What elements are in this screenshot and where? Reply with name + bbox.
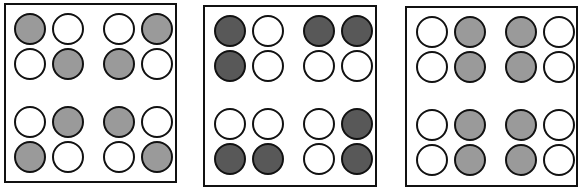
circle-empty [543,51,575,83]
circle-empty [543,16,575,48]
circle-light [103,48,135,80]
circle-empty [416,16,448,48]
circle-empty [252,15,284,47]
circle-dark [214,50,246,82]
circle-light [14,13,46,45]
circle-dark [214,15,246,47]
circle-empty [543,109,575,141]
circle-dark [341,108,373,140]
panel-3 [405,6,578,187]
circle-empty [103,13,135,45]
circle-light [141,13,173,45]
circle-empty [416,51,448,83]
circle-empty [214,108,246,140]
circle-light [454,109,486,141]
circle-dark [303,15,335,47]
circle-light [454,51,486,83]
panel-2 [203,5,377,187]
circle-dark [341,15,373,47]
circle-empty [103,141,135,173]
circle-empty [303,108,335,140]
circle-light [505,16,537,48]
circle-empty [141,106,173,138]
circle-light [141,141,173,173]
circle-light [505,144,537,176]
circle-empty [14,48,46,80]
circle-empty [252,50,284,82]
circle-empty [303,50,335,82]
circle-dark [341,143,373,175]
circle-empty [416,144,448,176]
circle-empty [303,143,335,175]
circle-empty [52,141,84,173]
circle-light [505,51,537,83]
circle-light [103,106,135,138]
circle-light [14,141,46,173]
circle-light [505,109,537,141]
circle-light [454,16,486,48]
circle-dark [252,143,284,175]
circle-dark [214,143,246,175]
circle-empty [14,106,46,138]
circle-empty [543,144,575,176]
circle-empty [341,50,373,82]
circle-empty [252,108,284,140]
circle-light [52,48,84,80]
panel-1 [4,3,177,183]
circle-empty [52,13,84,45]
circle-empty [141,48,173,80]
circle-empty [416,109,448,141]
circle-light [52,106,84,138]
circle-light [454,144,486,176]
